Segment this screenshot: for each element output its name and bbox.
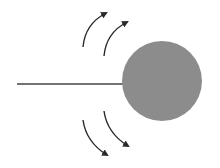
diagram-svg	[0, 0, 220, 168]
curved-arrow-lower-right-icon	[104, 111, 128, 146]
curved-arrow-upper-right-icon	[104, 22, 127, 56]
ball-circle	[122, 41, 202, 121]
diagram-canvas	[0, 0, 220, 168]
curved-arrow-upper-left-icon	[83, 13, 106, 47]
curved-arrow-lower-left-icon	[83, 120, 107, 155]
